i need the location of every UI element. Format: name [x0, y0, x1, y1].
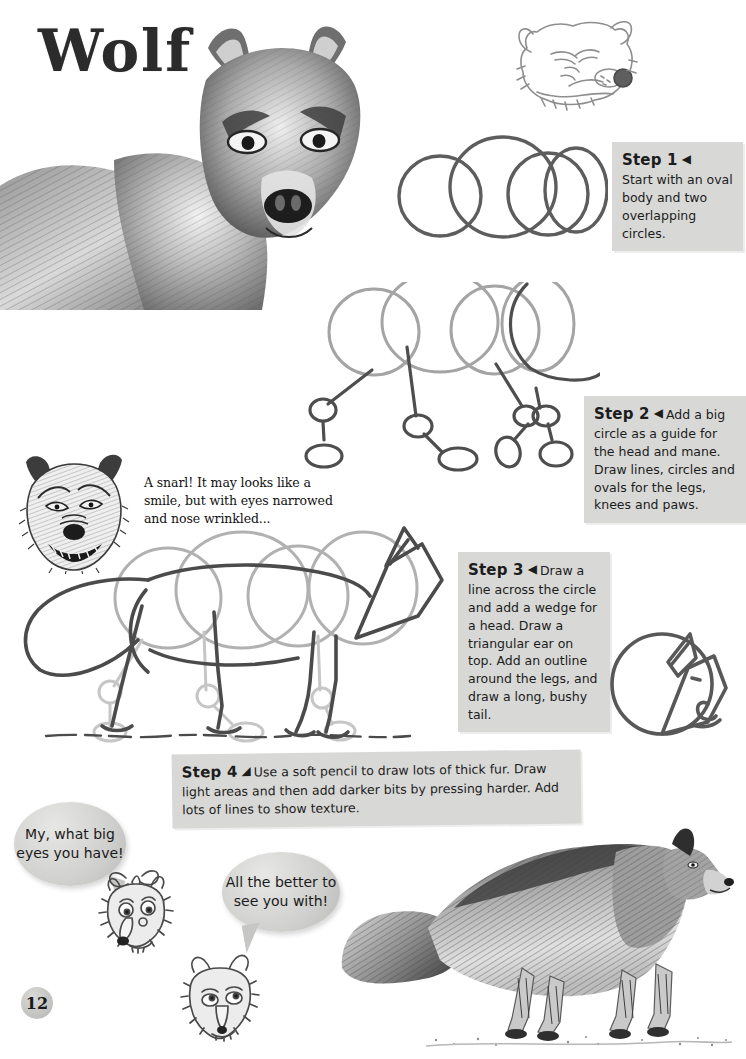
wolf-portrait-photo [0, 10, 374, 310]
wolf-face-sketch-top [503, 14, 643, 114]
callout-step-2: Step 2◀Add a big circle as a guide for t… [584, 396, 746, 523]
cartoon-wolf-grandma [88, 862, 184, 958]
step-4-body: Use a soft pencil to draw lots of thick … [182, 761, 559, 817]
step-1-marker-icon: ◀ [682, 152, 691, 166]
cartoon-wolf-face [172, 948, 268, 1044]
step-2-heading: Step 2 [594, 405, 650, 423]
step-2-marker-icon: ◀ [654, 406, 663, 420]
page-number: 12 [21, 987, 53, 1019]
step-3-heading: Step 3 [468, 561, 524, 579]
speech-bubble-better-to-see: All the better to see you with! [222, 852, 340, 932]
step3-head-detail [604, 622, 730, 740]
step-3-marker-icon: ◀ [528, 562, 537, 576]
callout-step-4: Step 4◢Use a soft pencil to draw lots of… [172, 750, 582, 829]
callout-step-3: Step 3◀Draw a line across the circle and… [458, 552, 610, 732]
step-4-marker-icon: ◢ [241, 764, 250, 778]
step2-skeleton-diagram [300, 282, 600, 482]
step-3-body: Draw a line across the circle and add a … [468, 563, 598, 722]
callout-step-1: Step 1◀ Start with an oval body and two … [612, 142, 743, 251]
finished-wolf-drawing [336, 818, 734, 1056]
speech-bubble-big-eyes-text: My, what big eyes you have! [14, 825, 126, 863]
step-1-body: Start with an oval body and two overlapp… [622, 172, 733, 240]
step-1-heading: Step 1 [622, 151, 678, 169]
speech-bubble-better-to-see-text: All the better to see you with! [222, 873, 340, 911]
step1-circles-diagram [396, 134, 608, 246]
step3-outline-diagram [18, 520, 458, 750]
step-4-heading: Step 4 [182, 763, 238, 782]
